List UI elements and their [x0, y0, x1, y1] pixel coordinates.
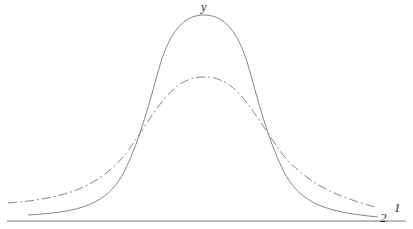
distribution-curves-figure: y 1 2 — [0, 0, 413, 229]
curve-2-label: 2 — [380, 210, 387, 225]
curves-svg: y 1 2 — [0, 0, 413, 229]
y-axis-label: y — [199, 0, 207, 14]
curve-1-label: 1 — [394, 200, 401, 215]
curve-2-solid — [28, 15, 378, 217]
curve-1-dashdot — [8, 77, 375, 207]
